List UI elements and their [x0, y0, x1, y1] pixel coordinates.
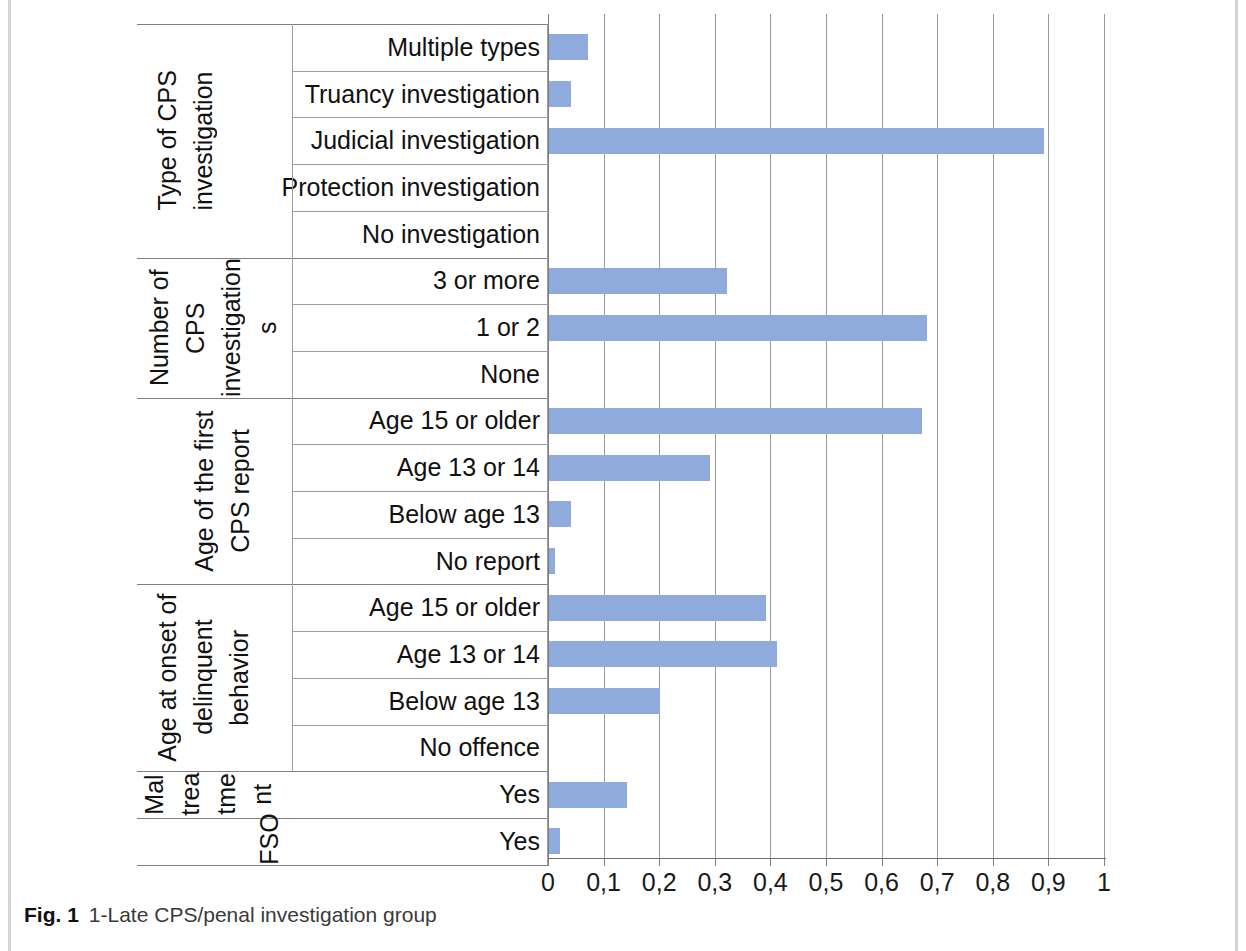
category-label: None: [480, 362, 548, 387]
x-tick-label: 0,3: [685, 868, 745, 897]
category-label: 1 or 2: [476, 315, 548, 340]
x-tick: [770, 859, 771, 866]
group-label-divider: [292, 258, 293, 398]
category-label: No offence: [420, 735, 548, 760]
group-label-line: Age at onset of: [155, 584, 191, 771]
gridline-1.0: [1104, 14, 1105, 860]
table-bottom-border: [137, 865, 548, 866]
x-tick: [715, 859, 716, 866]
category-label-column: Multiple typesTruancy investigationJudic…: [137, 14, 548, 860]
group-label-line: Type of CPS: [155, 24, 191, 258]
plot-area: [548, 14, 1104, 860]
category-label: 3 or more: [433, 268, 548, 293]
x-tick: [826, 859, 827, 866]
x-tick-label: 0,9: [1018, 868, 1078, 897]
x-tick: [937, 859, 938, 866]
category-label: Age 15 or older: [369, 595, 548, 620]
category-label: Below age 13: [388, 689, 548, 714]
figure-chart-area: Multiple typesTruancy investigationJudic…: [0, 0, 1246, 900]
figure-caption: Fig. 11-Late CPS/penal investigation gro…: [24, 903, 437, 927]
group-label-line: CPS report: [228, 398, 264, 585]
x-tick-label: 0,6: [852, 868, 912, 897]
x-tick: [659, 859, 660, 866]
x-tick: [993, 859, 994, 866]
category-label: No report: [436, 549, 548, 574]
row-separator: [292, 117, 548, 118]
category-label: No investigation: [362, 222, 548, 247]
group-label-line: FSO: [257, 818, 293, 865]
category-label: Age 13 or 14: [397, 455, 548, 480]
row-separator: [292, 444, 548, 445]
category-label: Judicial investigation: [311, 128, 548, 153]
x-tick-label: 0,7: [907, 868, 967, 897]
x-tick-label: 0,5: [796, 868, 856, 897]
group-label-line: nt: [250, 771, 286, 818]
bar: [549, 548, 555, 574]
bar: [549, 501, 571, 527]
bar: [549, 688, 660, 714]
category-label: Age 15 or older: [369, 408, 548, 433]
bar: [549, 595, 766, 621]
bar-chart: Multiple typesTruancy investigationJudic…: [137, 14, 1227, 860]
x-tick: [548, 859, 549, 866]
bar: [549, 408, 922, 434]
row-separator: [292, 211, 548, 212]
x-tick: [1104, 859, 1105, 866]
category-label: Truancy investigation: [305, 82, 548, 107]
group-label-line: delinquent: [191, 584, 227, 771]
row-separator: [292, 725, 548, 726]
x-tick-label: 0,8: [963, 868, 1023, 897]
bar: [549, 315, 927, 341]
category-row: Yes: [137, 818, 548, 865]
group-label-line: trea: [178, 771, 214, 818]
group-label-line: investigation: [191, 24, 227, 258]
x-tick-label: 0,2: [629, 868, 689, 897]
x-tick: [604, 859, 605, 866]
x-tick-label: 1: [1074, 868, 1134, 897]
bar: [549, 34, 588, 60]
figure-number: Fig. 1: [24, 903, 79, 926]
group-label-divider: [292, 398, 293, 585]
row-separator: [292, 678, 548, 679]
row-separator: [292, 538, 548, 539]
figure-caption-text: 1-Late CPS/penal investigation group: [89, 903, 437, 926]
bar: [549, 455, 710, 481]
group-label-line: Mal: [142, 771, 178, 818]
group-label-line: tme: [214, 771, 250, 818]
category-label: Protection investigation: [282, 175, 548, 200]
x-tick-label: 0,4: [740, 868, 800, 897]
x-axis-line: [548, 858, 1106, 859]
group-label-line: investigation: [219, 258, 255, 398]
group-label-divider: [292, 584, 293, 771]
row-separator: [292, 304, 548, 305]
x-tick-label: 0: [518, 868, 578, 897]
row-separator: [292, 71, 548, 72]
group-label-line: CPS: [183, 258, 219, 398]
group-label-line: Age of the first: [192, 398, 228, 585]
category-label: Yes: [499, 829, 548, 854]
row-separator: [292, 491, 548, 492]
x-tick: [882, 859, 883, 866]
group-label-divider: [292, 24, 293, 258]
category-label: Yes: [499, 782, 548, 807]
category-label: Age 13 or 14: [397, 642, 548, 667]
x-tick-label: 0,1: [574, 868, 634, 897]
bar: [549, 828, 560, 854]
category-label: Below age 13: [388, 502, 548, 527]
category-label: Multiple types: [387, 35, 548, 60]
row-separator: [292, 631, 548, 632]
row-separator: [292, 351, 548, 352]
x-tick: [1048, 859, 1049, 866]
bar: [549, 81, 571, 107]
bar: [549, 268, 727, 294]
group-label-line: Number of: [147, 258, 183, 398]
figure-page: Multiple typesTruancy investigationJudic…: [0, 0, 1246, 951]
gridline-0.9: [1048, 14, 1049, 860]
group-label-line: behavior: [227, 584, 263, 771]
group-label-line: s: [255, 258, 291, 398]
bar: [549, 641, 777, 667]
bar: [549, 128, 1044, 154]
row-separator: [292, 164, 548, 165]
bar: [549, 782, 627, 808]
group-separator: [137, 818, 548, 819]
